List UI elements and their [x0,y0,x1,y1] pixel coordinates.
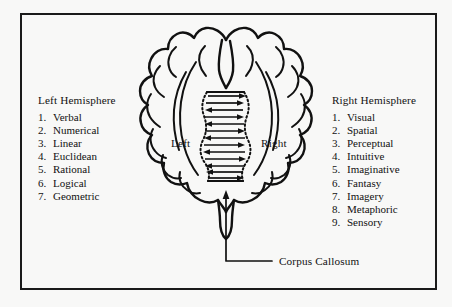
list-item-number: 1. [38,111,53,124]
list-item-number: 3. [332,137,347,150]
list-item-label: Spatial [347,124,378,137]
list-item: 7. Geometric [38,190,116,203]
list-item-number: 5. [332,163,347,176]
figure-canvas: Left Hemisphere 1. Verbal 2. Numerical 3… [0,0,452,307]
list-item-label: Euclidean [53,150,97,163]
list-item-number: 2. [332,124,347,137]
list-item-label: Metaphoric [347,203,398,216]
list-item: 5. Rational [38,163,116,176]
list-item: 6. Fantasy [332,177,416,190]
list-item: 3. Linear [38,137,116,150]
right-hemisphere-list: 1. Visual 2. Spatial 3. Perceptual 4. In… [332,111,416,230]
list-item-number: 6. [332,177,347,190]
list-item-number: 5. [38,163,53,176]
list-item-number: 7. [38,190,53,203]
left-hemisphere-title: Left Hemisphere [38,94,116,107]
list-item: 6. Logical [38,177,116,190]
list-item-number: 7. [332,190,347,203]
list-item-label: Fantasy [347,177,381,190]
list-item-number: 3. [38,137,53,150]
right-hemisphere-column: Right Hemisphere 1. Visual 2. Spatial 3.… [332,94,416,229]
list-item-label: Perceptual [347,137,393,150]
brain-label-right: Right [261,137,287,149]
left-hemisphere-column: Left Hemisphere 1. Verbal 2. Numerical 3… [38,94,116,203]
list-item: 5. Imaginative [332,163,416,176]
corpus-callosum-label: Corpus Callosum [279,255,359,267]
brain-label-left: Left [171,137,190,149]
list-item-number: 1. [332,111,347,124]
list-item: 4. Euclidean [38,150,116,163]
left-hemisphere-list: 1. Verbal 2. Numerical 3. Linear 4. Eucl… [38,111,116,203]
list-item-label: Rational [53,163,90,176]
list-item-number: 6. [38,177,53,190]
list-item: 2. Spatial [332,124,416,137]
list-item-label: Numerical [53,124,99,137]
list-item-label: Linear [53,137,82,150]
list-item-number: 4. [332,150,347,163]
list-item: 4. Intuitive [332,150,416,163]
list-item-label: Imagery [347,190,384,203]
list-item-label: Sensory [347,216,382,229]
list-item: 1. Visual [332,111,416,124]
list-item: 7. Imagery [332,190,416,203]
list-item: 8. Metaphoric [332,203,416,216]
right-hemisphere-title: Right Hemisphere [332,94,416,107]
list-item-label: Intuitive [347,150,384,163]
list-item-label: Logical [53,177,87,190]
list-item: 3. Perceptual [332,137,416,150]
list-item-label: Verbal [53,111,82,124]
list-item: 2. Numerical [38,124,116,137]
list-item-label: Geometric [53,190,99,203]
list-item-number: 2. [38,124,53,137]
list-item-number: 9. [332,216,347,229]
list-item-number: 4. [38,150,53,163]
list-item-label: Imaginative [347,163,400,176]
list-item: 1. Verbal [38,111,116,124]
list-item-number: 8. [332,203,347,216]
list-item-label: Visual [347,111,375,124]
list-item: 9. Sensory [332,216,416,229]
